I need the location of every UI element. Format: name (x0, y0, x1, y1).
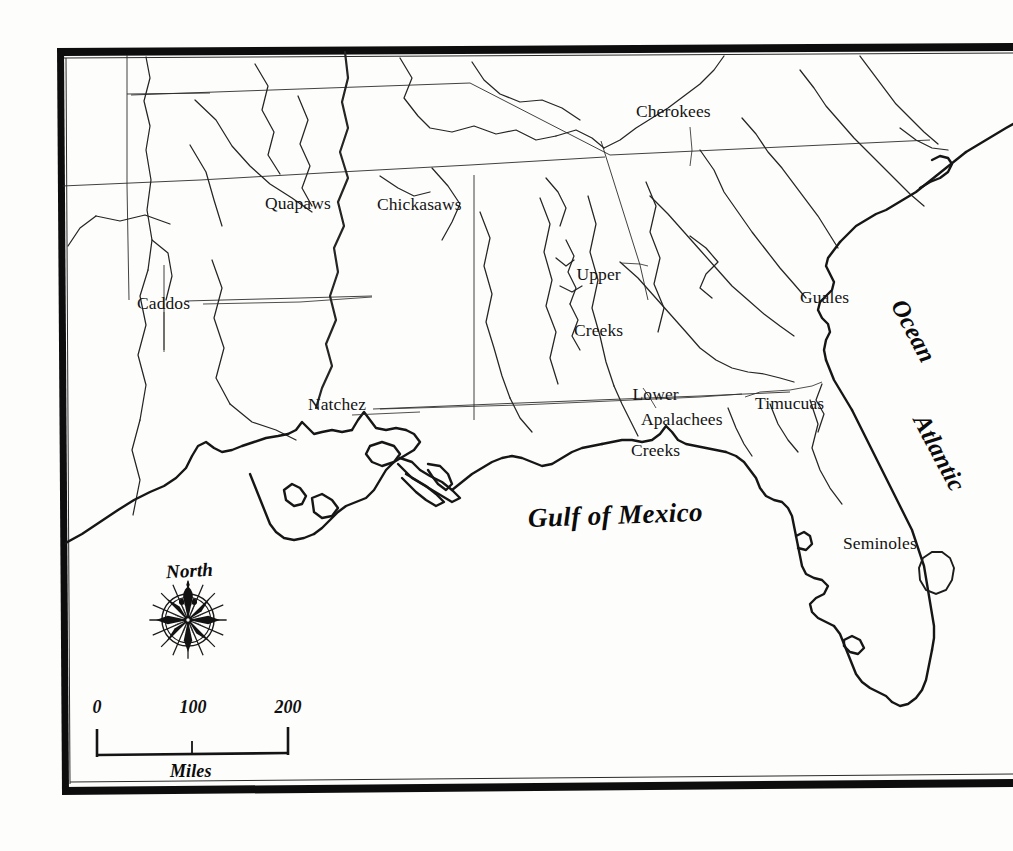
compass-rose-icon (146, 578, 230, 662)
tribe-label-chickasaws[interactable]: Chickasaws (377, 196, 462, 214)
upper-creeks-line-1: Upper (574, 265, 623, 284)
tribe-label-seminoles[interactable]: Seminoles (843, 535, 917, 553)
territory-boundaries (62, 55, 930, 420)
tribe-label-timucuas[interactable]: Timucuas (755, 395, 824, 413)
map-canvas: Quapaws Chickasaws Caddos Natchez Cherok… (0, 0, 1013, 851)
lower-creeks-line-1: Lower (631, 385, 680, 404)
water-label-gulf-of-mexico: Gulf of Mexico (528, 499, 704, 533)
compass-fleur-de-lis (179, 580, 197, 606)
scale-tick-0: 0 (82, 697, 112, 718)
scale-tick-200: 200 (265, 697, 311, 718)
tribe-label-caddos[interactable]: Caddos (137, 295, 190, 313)
upper-creeks-line-2: Creeks (574, 321, 623, 340)
tribe-label-upper-creeks[interactable]: Upper Creeks (574, 228, 623, 376)
tribe-label-apalachees[interactable]: Apalachees (641, 411, 723, 429)
compass-rose-svg (146, 578, 230, 662)
tribe-label-natchez[interactable]: Natchez (308, 396, 366, 414)
tribe-label-quapaws[interactable]: Quapaws (265, 195, 331, 213)
map-graphics (0, 0, 1013, 851)
lower-creeks-line-2: Creeks (631, 441, 680, 460)
map-frame (57, 43, 1013, 795)
tribe-label-cherokees[interactable]: Cherokees (636, 103, 711, 121)
scale-unit-label: Miles (170, 762, 212, 780)
scale-bar-graphic (97, 727, 288, 757)
label-leader-lines (164, 127, 822, 415)
tribe-label-guales[interactable]: Guales (800, 289, 849, 307)
scale-tick-100: 100 (170, 697, 216, 718)
